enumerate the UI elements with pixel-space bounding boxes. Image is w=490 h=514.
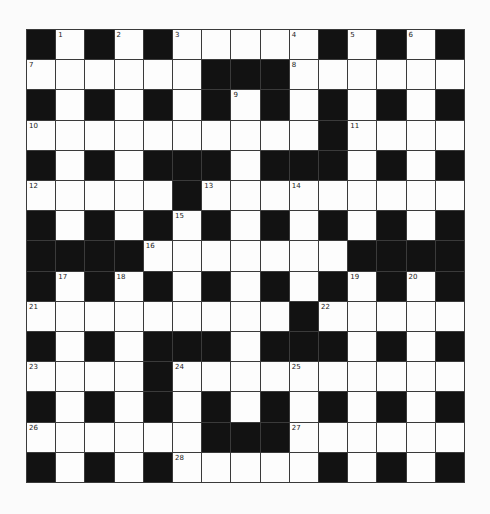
answer-cell[interactable] — [231, 332, 259, 361]
answer-cell[interactable] — [261, 30, 289, 59]
answer-cell[interactable] — [377, 302, 405, 331]
answer-cell[interactable] — [173, 241, 201, 270]
answer-cell[interactable] — [436, 60, 464, 89]
answer-cell[interactable] — [261, 241, 289, 270]
answer-cell[interactable] — [290, 392, 318, 421]
answer-cell[interactable] — [348, 302, 376, 331]
answer-cell[interactable]: 27 — [290, 423, 318, 452]
answer-cell[interactable] — [407, 90, 435, 119]
answer-cell[interactable] — [173, 121, 201, 150]
answer-cell[interactable]: 20 — [407, 272, 435, 301]
answer-cell[interactable] — [173, 60, 201, 89]
answer-cell[interactable]: 21 — [27, 302, 55, 331]
answer-cell[interactable] — [436, 423, 464, 452]
answer-cell[interactable] — [85, 362, 113, 391]
answer-cell[interactable] — [85, 302, 113, 331]
answer-cell[interactable]: 2 — [115, 30, 143, 59]
answer-cell[interactable] — [115, 181, 143, 210]
answer-cell[interactable] — [115, 332, 143, 361]
answer-cell[interactable] — [290, 90, 318, 119]
answer-cell[interactable] — [348, 362, 376, 391]
answer-cell[interactable] — [348, 181, 376, 210]
answer-cell[interactable] — [348, 90, 376, 119]
answer-cell[interactable] — [173, 90, 201, 119]
answer-cell[interactable] — [407, 211, 435, 240]
answer-cell[interactable] — [348, 151, 376, 180]
answer-cell[interactable]: 17 — [56, 272, 84, 301]
answer-cell[interactable] — [56, 60, 84, 89]
answer-cell[interactable] — [202, 362, 230, 391]
answer-cell[interactable] — [115, 302, 143, 331]
answer-cell[interactable] — [261, 181, 289, 210]
answer-cell[interactable] — [290, 121, 318, 150]
answer-cell[interactable] — [290, 453, 318, 482]
answer-cell[interactable]: 13 — [202, 181, 230, 210]
answer-cell[interactable] — [377, 362, 405, 391]
answer-cell[interactable] — [56, 302, 84, 331]
answer-cell[interactable] — [144, 181, 172, 210]
answer-cell[interactable]: 8 — [290, 60, 318, 89]
answer-cell[interactable]: 11 — [348, 121, 376, 150]
answer-cell[interactable] — [377, 181, 405, 210]
answer-cell[interactable] — [261, 453, 289, 482]
answer-cell[interactable] — [85, 60, 113, 89]
answer-cell[interactable] — [56, 362, 84, 391]
answer-cell[interactable] — [231, 151, 259, 180]
answer-cell[interactable] — [173, 272, 201, 301]
answer-cell[interactable] — [115, 151, 143, 180]
answer-cell[interactable]: 24 — [173, 362, 201, 391]
answer-cell[interactable] — [115, 392, 143, 421]
answer-cell[interactable] — [202, 30, 230, 59]
answer-cell[interactable] — [290, 241, 318, 270]
answer-cell[interactable] — [436, 362, 464, 391]
answer-cell[interactable] — [56, 392, 84, 421]
answer-cell[interactable] — [56, 121, 84, 150]
answer-cell[interactable] — [231, 30, 259, 59]
answer-cell[interactable] — [231, 272, 259, 301]
answer-cell[interactable]: 19 — [348, 272, 376, 301]
answer-cell[interactable] — [173, 392, 201, 421]
answer-cell[interactable] — [261, 362, 289, 391]
answer-cell[interactable] — [407, 453, 435, 482]
answer-cell[interactable] — [85, 121, 113, 150]
answer-cell[interactable] — [144, 423, 172, 452]
answer-cell[interactable]: 18 — [115, 272, 143, 301]
answer-cell[interactable] — [56, 181, 84, 210]
answer-cell[interactable] — [319, 423, 347, 452]
answer-cell[interactable] — [231, 211, 259, 240]
answer-cell[interactable] — [348, 423, 376, 452]
answer-cell[interactable]: 14 — [290, 181, 318, 210]
answer-cell[interactable] — [231, 392, 259, 421]
answer-cell[interactable] — [348, 332, 376, 361]
answer-cell[interactable]: 25 — [290, 362, 318, 391]
answer-cell[interactable] — [377, 121, 405, 150]
answer-cell[interactable] — [348, 392, 376, 421]
answer-cell[interactable] — [115, 453, 143, 482]
answer-cell[interactable]: 10 — [27, 121, 55, 150]
answer-cell[interactable]: 16 — [144, 241, 172, 270]
answer-cell[interactable] — [231, 121, 259, 150]
answer-cell[interactable] — [144, 121, 172, 150]
answer-cell[interactable] — [436, 181, 464, 210]
answer-cell[interactable] — [407, 181, 435, 210]
answer-cell[interactable] — [407, 302, 435, 331]
answer-cell[interactable] — [348, 211, 376, 240]
answer-cell[interactable] — [348, 453, 376, 482]
answer-cell[interactable] — [56, 332, 84, 361]
answer-cell[interactable] — [202, 241, 230, 270]
answer-cell[interactable]: 7 — [27, 60, 55, 89]
answer-cell[interactable] — [407, 362, 435, 391]
answer-cell[interactable] — [115, 423, 143, 452]
answer-cell[interactable]: 26 — [27, 423, 55, 452]
answer-cell[interactable]: 9 — [231, 90, 259, 119]
answer-cell[interactable]: 3 — [173, 30, 201, 59]
answer-cell[interactable] — [115, 60, 143, 89]
answer-cell[interactable] — [56, 453, 84, 482]
answer-cell[interactable]: 1 — [56, 30, 84, 59]
answer-cell[interactable] — [202, 453, 230, 482]
answer-cell[interactable] — [56, 423, 84, 452]
answer-cell[interactable] — [85, 181, 113, 210]
answer-cell[interactable]: 28 — [173, 453, 201, 482]
answer-cell[interactable] — [377, 423, 405, 452]
answer-cell[interactable] — [115, 121, 143, 150]
